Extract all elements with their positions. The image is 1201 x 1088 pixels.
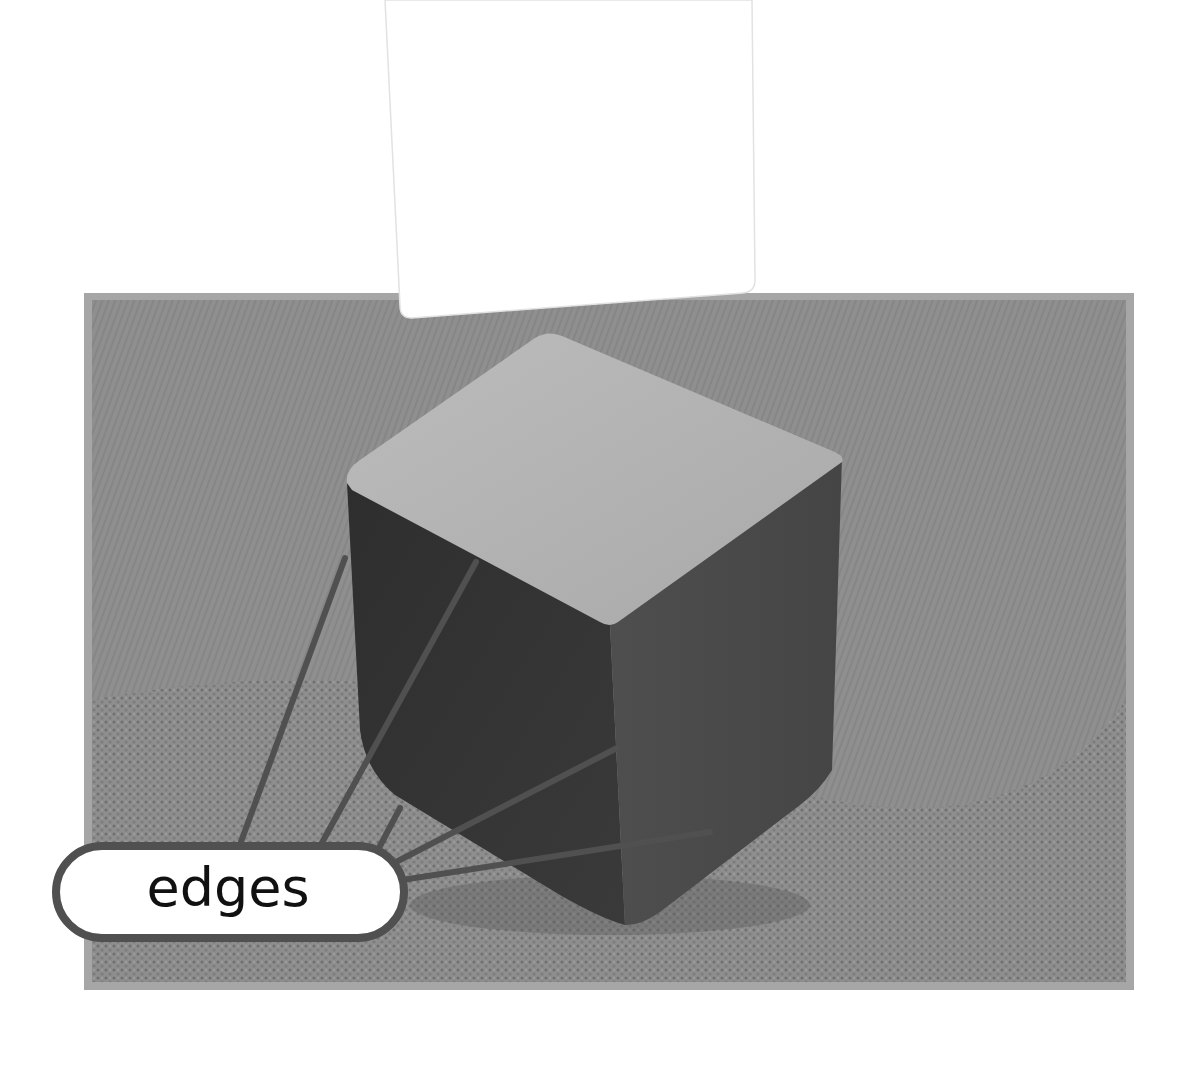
white-card	[385, 0, 755, 318]
cube-edges-diagram: edges	[0, 0, 1201, 1088]
label-text: edges	[146, 856, 309, 919]
diagram-canvas: edges	[0, 0, 1201, 1088]
edges-label: edges	[56, 846, 404, 938]
